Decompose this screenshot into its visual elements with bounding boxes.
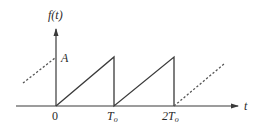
y-axis-label: f(t)	[48, 8, 63, 22]
sawtooth-waveform	[56, 57, 174, 106]
x-axis-label: t	[244, 99, 248, 113]
tick-label-T0: To	[107, 109, 118, 122]
tick-label-zero: 0	[52, 109, 58, 122]
sawtooth-diagram: f(t) A t 0 To 2To	[0, 0, 257, 122]
dashed-extension-right	[174, 64, 224, 106]
amplitude-label: A	[60, 51, 69, 65]
dashed-extension-left	[23, 58, 55, 83]
tick-label-2T0: 2To	[162, 109, 179, 122]
